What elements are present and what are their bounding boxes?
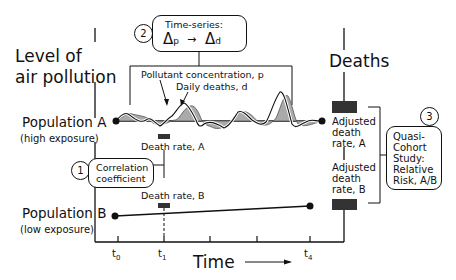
daily-deaths-label: Daily deaths, d [176, 82, 248, 92]
population-b-start-dot [112, 213, 119, 220]
y-axis-label-line2: air pollution [15, 69, 117, 86]
step2-box: Time-series: Δp → Δd [152, 15, 247, 52]
step3-line3: Study: [393, 153, 437, 164]
population-a-end-dot [319, 118, 326, 125]
delta-d-sub: d [215, 36, 221, 46]
population-b-line [115, 206, 310, 216]
time-axis-label: Time [193, 254, 235, 271]
tick-label-t0: t0 [112, 249, 120, 262]
step3-box: Quasi- Cohort Study: Relative Risk, A/B [386, 126, 442, 190]
adjusted-a-line3: rate, A [332, 138, 376, 149]
step2-delta-d: Δd [205, 32, 221, 47]
step2-number: 2 [134, 24, 153, 43]
step3-line1: Quasi- [393, 131, 437, 142]
delta-symbol: Δ [163, 30, 173, 48]
adjusted-a-line1: Adjusted [332, 116, 376, 127]
pollutant-label: Pollutant concentration, p [141, 70, 264, 80]
time-arrowhead [284, 260, 292, 265]
adjusted-b-line1: Adjusted [332, 162, 376, 173]
step2-title: Time-series: [165, 20, 223, 30]
adjusted-rate-a-bar [332, 101, 357, 113]
adjusted-rate-b-bar [332, 199, 357, 210]
population-b-label: Population B [22, 207, 106, 221]
step1-line1: Correlation [96, 163, 148, 173]
death-rate-b-label: Death rate, B [141, 191, 205, 201]
step3-line5: Risk, A/B [393, 175, 437, 186]
step3-line4: Relative [393, 164, 437, 175]
deaths-axis-label: Deaths [329, 53, 389, 70]
population-a-start-dot [113, 118, 120, 125]
delta-symbol: Δ [205, 30, 215, 48]
step3-text: Quasi- Cohort Study: Relative Risk, A/B [393, 131, 437, 186]
step3-line2: Cohort [393, 142, 437, 153]
population-b-exposure: (low exposure) [20, 225, 94, 235]
death-rate-b-bar [158, 203, 170, 208]
adjusted-b-line2: death [332, 173, 376, 184]
step1-line2: coefficient [96, 174, 146, 184]
population-a-label: Population A [22, 116, 106, 130]
death-rate-a-bar [158, 134, 170, 139]
step3-number: 3 [420, 107, 439, 126]
tick-label-t4: t4 [304, 249, 312, 262]
pollutant-arrowhead [164, 99, 169, 106]
adjusted-a-line2: death [332, 127, 376, 138]
step2-delta-p: Δp [163, 32, 179, 47]
population-a-exposure: (high exposure) [20, 134, 99, 144]
delta-p-sub: p [173, 36, 179, 46]
step1-box: Correlation coefficient [88, 158, 154, 188]
arrow-icon: → [187, 34, 196, 45]
adjusted-b-line3: rate, B [332, 184, 376, 195]
y-axis-label-line1: Level of [15, 48, 82, 65]
adjusted-rate-b-label: Adjusted death rate, B [332, 162, 376, 195]
population-b-end-dot [307, 203, 314, 210]
adjusted-rate-a-label: Adjusted death rate, A [332, 116, 376, 149]
death-rate-a-label: Death rate, A [141, 142, 205, 152]
tick-label-t1: t1 [158, 249, 166, 262]
